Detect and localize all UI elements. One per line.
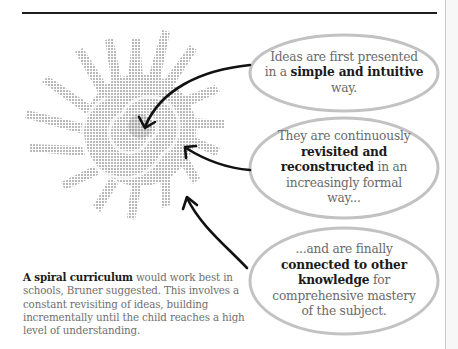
bubble-1-emphasis: simple and intuitive	[291, 65, 424, 79]
bubble-3-text: ...and are finally	[295, 242, 392, 256]
arrow-3-icon	[187, 198, 247, 268]
speech-bubble-3: ...and are finally connected to other kn…	[252, 228, 436, 334]
bubble-2-emphasis: revisited and reconstructed	[281, 145, 387, 175]
speech-bubble-1: Ideas are first presented in a simple an…	[252, 36, 436, 110]
figure-caption: A spiral curriculum would work best in s…	[23, 271, 248, 337]
caption-emphasis: A spiral curriculum	[23, 271, 133, 283]
bubble-1-text-end: way.	[331, 81, 357, 95]
speech-bubble-2: They are continuously revisited and reco…	[252, 118, 436, 218]
bubble-2-text: They are continuously	[278, 129, 411, 143]
